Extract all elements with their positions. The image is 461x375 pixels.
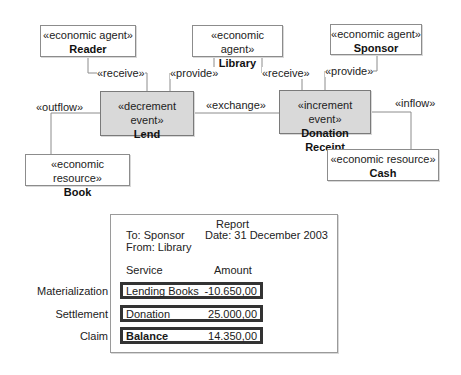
- row-category: Materialization: [4, 285, 108, 297]
- report-row: Lending Books -10.650,00: [120, 282, 263, 299]
- row-amount: 14.350,00: [208, 331, 257, 342]
- row-service: Lending Books: [126, 286, 199, 297]
- connector-lend-book: [51, 113, 100, 154]
- stereotype-label: «decrement event»: [101, 92, 193, 127]
- connector-donation-cash: [371, 112, 411, 149]
- row-category: Settlement: [4, 308, 108, 320]
- agent-library[interactable]: «economic agent» Library: [192, 25, 283, 57]
- resource-cash[interactable]: «economic resource» Cash: [327, 149, 439, 181]
- label-provide-sponsor: «provide»: [325, 65, 373, 77]
- stereotype-label: «economic agent»: [193, 26, 282, 56]
- report-row: Donation 25.000,00: [120, 305, 263, 322]
- stereotype-label: «economic agent»: [41, 26, 135, 42]
- resource-name: Cash: [328, 166, 438, 180]
- column-header-amount: Amount: [214, 264, 252, 277]
- stereotype-label: «economic resource»: [328, 150, 438, 166]
- agent-name: Reader: [41, 42, 135, 56]
- label-exchange: «exchange»: [206, 99, 266, 111]
- row-category: Claim: [4, 330, 108, 342]
- stereotype-label: «economic agent»: [331, 25, 421, 41]
- resource-book[interactable]: «economic resource» Book: [25, 154, 130, 186]
- stereotype-label: «increment event»: [280, 91, 370, 126]
- event-donation-receipt[interactable]: «increment event» Donation Receipt: [279, 90, 371, 134]
- column-header-service: Service: [126, 264, 163, 277]
- agent-name: Sponsor: [331, 41, 421, 55]
- label-inflow: «inflow»: [395, 97, 435, 109]
- event-name: Lend: [101, 127, 193, 141]
- row-service: Balance: [126, 331, 168, 342]
- label-receive-reader: «receive»: [97, 67, 145, 79]
- row-amount: -10.650,00: [204, 286, 257, 297]
- stereotype-label: «economic resource»: [26, 155, 129, 185]
- label-receive-library: «receive»: [262, 67, 310, 79]
- report-date: Date: 31 December 2003: [205, 229, 328, 242]
- row-service: Donation: [126, 309, 170, 320]
- agent-sponsor[interactable]: «economic agent» Sponsor: [330, 24, 422, 55]
- resource-name: Book: [26, 185, 129, 199]
- report-from: From: Library: [126, 241, 191, 254]
- report-row-balance: Balance 14.350,00: [120, 327, 263, 344]
- label-outflow: «outflow»: [36, 101, 83, 113]
- row-amount: 25.000,00: [208, 309, 257, 320]
- label-provide-library: «provide»: [170, 67, 218, 79]
- agent-reader[interactable]: «economic agent» Reader: [40, 25, 136, 57]
- event-lend[interactable]: «decrement event» Lend: [100, 91, 194, 136]
